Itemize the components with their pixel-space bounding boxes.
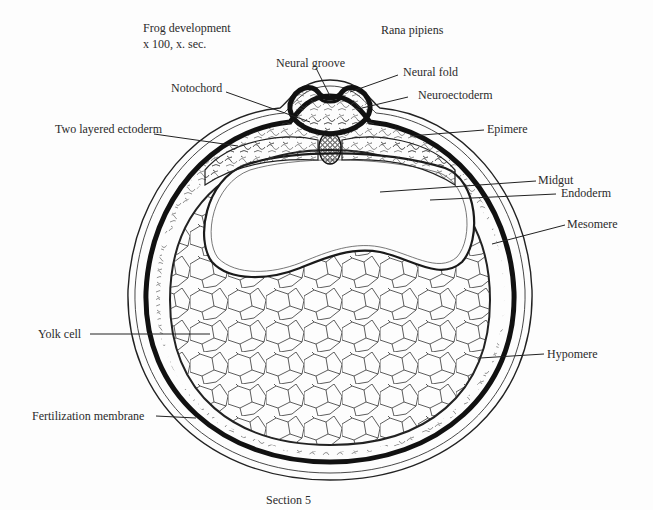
species-label: Rana pipiens (381, 24, 443, 37)
label-neural-fold: Neural fold (403, 66, 458, 79)
title-line-1: Frog development (143, 22, 231, 35)
label-yolk-cell: Yolk cell (38, 328, 81, 341)
frog-embryo-cross-section (0, 0, 653, 510)
section-caption: Section 5 (266, 494, 311, 507)
label-fertilization-membrane: Fertilization membrane (32, 410, 144, 423)
label-two-layered-ectoderm: Two layered ectoderm (55, 123, 162, 136)
label-epimere: Epimere (487, 123, 528, 136)
diagram-canvas: Frog development x 100, x. sec. Rana pip… (0, 0, 653, 510)
label-notochord: Notochord (171, 82, 222, 95)
label-neural-groove: Neural groove (276, 57, 345, 70)
title-line-2: x 100, x. sec. (143, 38, 206, 51)
notochord-shape (319, 132, 341, 164)
label-hypomere: Hypomere (547, 348, 598, 361)
label-neuroectoderm: Neuroectoderm (418, 89, 493, 102)
label-endoderm: Endoderm (561, 187, 611, 200)
label-mesomere: Mesomere (567, 218, 618, 231)
